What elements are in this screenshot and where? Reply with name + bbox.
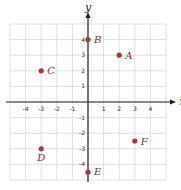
x-tick-label: 4 bbox=[148, 105, 152, 112]
point-label-c: C bbox=[47, 65, 55, 76]
x-axis-label: x bbox=[179, 95, 181, 108]
point-b bbox=[85, 37, 90, 42]
point-d bbox=[39, 146, 44, 151]
x-tick-label: 3 bbox=[133, 105, 137, 112]
y-tick-label: 4 bbox=[81, 36, 85, 43]
y-tick-label: -4 bbox=[79, 160, 85, 167]
x-tick-label: -4 bbox=[23, 105, 29, 112]
x-tick-label: -3 bbox=[38, 105, 44, 112]
coordinate-plane: xy-4-3-2-11234-4-3-2-11234ABCDEF bbox=[0, 0, 181, 190]
x-tick-label: -2 bbox=[54, 105, 60, 112]
point-e bbox=[85, 170, 90, 175]
point-f bbox=[132, 138, 137, 143]
y-tick-label: -1 bbox=[79, 114, 85, 121]
x-tick-label: 1 bbox=[102, 105, 106, 112]
point-label-f: F bbox=[140, 136, 149, 147]
y-tick-label: 1 bbox=[81, 82, 85, 89]
point-a bbox=[117, 53, 122, 58]
y-tick-label: -3 bbox=[79, 145, 85, 152]
point-label-b: B bbox=[93, 34, 101, 45]
x-tick-label: -1 bbox=[69, 105, 75, 112]
y-axis-label: y bbox=[84, 1, 92, 14]
y-tick-label: 3 bbox=[81, 51, 85, 58]
x-axis-arrow-icon bbox=[170, 100, 176, 105]
y-tick-label: -2 bbox=[79, 129, 85, 136]
point-c bbox=[39, 68, 44, 73]
x-tick-label: 2 bbox=[117, 105, 121, 112]
point-label-d: D bbox=[36, 152, 45, 163]
point-label-e: E bbox=[93, 166, 102, 177]
point-label-a: A bbox=[124, 50, 132, 61]
y-tick-label: 2 bbox=[81, 67, 85, 74]
